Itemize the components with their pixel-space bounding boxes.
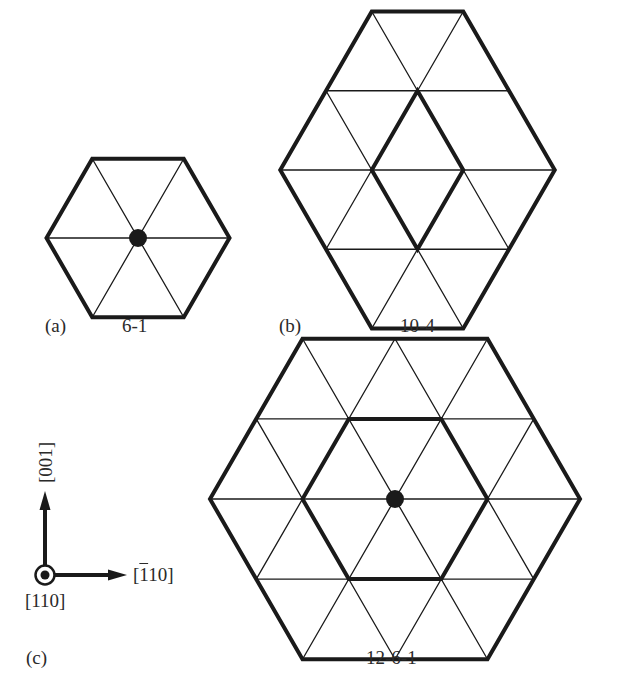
vertical-arrowhead-icon [40,491,51,510]
panel-a-name: 6-1 [122,316,147,335]
diagram-canvas [0,0,620,695]
panel-c-letter: (c) [26,648,47,667]
panel-b-letter: (b) [279,316,301,335]
axis-label-001: [001] [36,440,55,486]
panel-a-letter: (a) [45,316,66,335]
axis-label-barred-digit: 1 [139,564,148,585]
panel-c-12-6-1-cluster [210,339,580,659]
panel-b-10-4-cluster [280,12,555,329]
panel-c-name: 12-6-1 [366,648,417,667]
panel-a-6-1-cluster [47,159,230,317]
axis-label-1bar10: [110] [133,565,173,584]
out-of-plane-dot-icon [41,571,50,580]
center-atom-dot [129,229,147,247]
crystal-axes-indicator [36,491,128,585]
axis-label-110: [110] [25,591,65,610]
horizontal-arrowhead-icon [108,570,127,581]
center-atom-dot [386,490,404,508]
panel-b-name: 10-4 [400,316,435,335]
axis-label-rest: 10 [148,564,167,585]
